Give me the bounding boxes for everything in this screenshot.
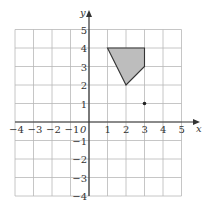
x-tick-label: 4 (160, 124, 166, 135)
origin-label: 0 (80, 124, 87, 135)
y-tick-label: 2 (81, 80, 87, 91)
x-tick-label: −1 (65, 124, 80, 135)
y-tick-label: 3 (81, 62, 87, 73)
y-tick-label: 1 (81, 99, 87, 110)
x-tick-label: 3 (142, 124, 148, 135)
tick-labels: −4−3−2−11234554321−1−2−3−4 (9, 25, 185, 203)
y-tick-label: −3 (72, 173, 87, 184)
x-tick-label: 1 (105, 124, 111, 135)
y-tick-label: 5 (81, 25, 87, 36)
y-tick-label: −1 (72, 136, 87, 147)
y-axis-arrow-icon (86, 10, 92, 17)
x-tick-label: −3 (28, 124, 43, 135)
y-tick-label: 4 (81, 43, 87, 54)
y-tick-label: −4 (72, 191, 87, 202)
x-tick-label: −2 (46, 124, 61, 135)
x-axis-label: x (196, 123, 202, 134)
x-tick-label: 2 (123, 124, 129, 135)
x-tick-label: 5 (179, 124, 185, 135)
grid-lines (15, 30, 182, 197)
axes: x y 0 (15, 7, 202, 196)
plotted-point (143, 102, 147, 106)
coordinate-grid: x y 0 −4−3−2−11234554321−1−2−3−4 (0, 0, 204, 209)
y-tick-label: −2 (72, 154, 87, 165)
y-axis-label: y (79, 7, 86, 18)
x-tick-label: −4 (9, 124, 24, 135)
